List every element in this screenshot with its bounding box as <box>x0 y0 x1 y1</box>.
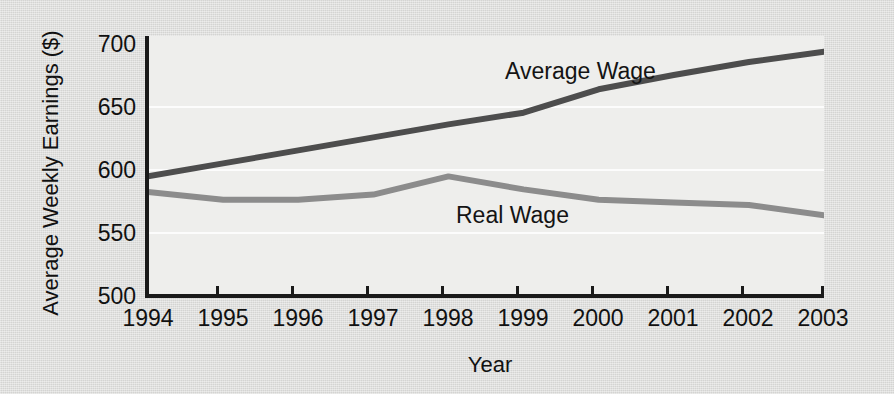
x-tick-mark <box>291 286 294 295</box>
plot-svg <box>148 36 824 296</box>
y-axis-line <box>145 36 149 298</box>
series-line-average-wage <box>148 52 824 177</box>
y-tick-label: 650 <box>84 96 136 119</box>
x-axis-title: Year <box>395 352 585 378</box>
x-axis-line <box>145 294 824 298</box>
plot-area <box>148 36 824 296</box>
series-label-average-wage: Average Wage <box>505 60 656 83</box>
y-axis-title: Average Weekly Earnings ($) <box>38 28 64 318</box>
y-tick-labels: 700 650 600 550 500 <box>80 0 136 394</box>
x-tick-mark <box>821 286 824 295</box>
x-tick-mark <box>216 286 219 295</box>
y-tick-label: 700 <box>84 33 136 56</box>
x-tick-mark <box>441 286 444 295</box>
y-tick-label: 550 <box>84 222 136 245</box>
x-tick-mark <box>591 286 594 295</box>
x-tick-label: 2003 <box>778 307 868 330</box>
x-tick-mark <box>516 286 519 295</box>
y-tick-label: 600 <box>84 159 136 182</box>
series-label-real-wage: Real Wage <box>456 204 569 227</box>
x-tick-mark <box>366 286 369 295</box>
x-tick-mark <box>666 286 669 295</box>
x-tick-mark <box>741 286 744 295</box>
chart-figure: 700 650 600 550 500 1994 1995 1996 1997 … <box>0 0 894 394</box>
